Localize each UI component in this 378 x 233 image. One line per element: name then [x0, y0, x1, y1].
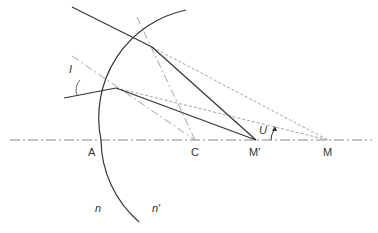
label-m-prime: M′: [249, 146, 260, 158]
ray-lower-refracted: [116, 88, 256, 140]
angle-u-arc: [271, 130, 274, 140]
label-n: n: [95, 202, 101, 214]
ray-lower-incident: [64, 88, 116, 98]
optics-diagram: A C M′ M n n′ I U: [0, 0, 378, 233]
normal-line-upper: [137, 17, 195, 140]
label-m: M: [323, 146, 332, 158]
label-n-prime: n′: [152, 202, 161, 214]
label-angle-i: I: [69, 63, 72, 75]
label-angle-u: U: [259, 124, 267, 136]
label-c: C: [191, 146, 199, 158]
virtual-ray-lower: [116, 88, 328, 140]
label-a: A: [88, 146, 96, 158]
ray-upper-incident: [72, 7, 152, 47]
ray-upper-refracted: [152, 47, 256, 140]
angle-i-arc: [76, 80, 80, 95]
